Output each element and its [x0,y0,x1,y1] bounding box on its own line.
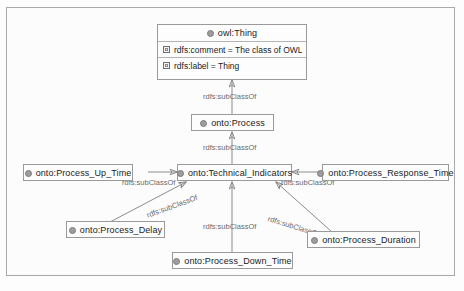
attribute-text: rdfs:label = Thing [174,61,239,71]
node-onto-technical-indicators-header: onto:Technical_Indicators [178,165,291,181]
node-onto-process-response-time-header: onto:Process_Response_Time [323,165,448,181]
node-onto-process-title: onto:Process [211,118,265,128]
node-owl-thing[interactable]: owl:Thing rdfs:comment = The class of OW… [157,24,307,80]
diagram-canvas: rdfs:subClassOf rdfs:subClassOf rdfs:sub… [0,0,464,291]
node-onto-process-duration-title: onto:Process_Duration [322,235,416,245]
class-circle-icon [69,227,76,234]
node-onto-process-up-time[interactable]: onto:Process_Up_Time [23,164,133,181]
node-onto-process-header: onto:Process [192,115,273,131]
class-circle-icon [200,120,207,127]
node-onto-process-delay[interactable]: onto:Process_Delay [66,221,165,238]
node-onto-process-duration[interactable]: onto:Process_Duration [307,231,420,248]
node-onto-process-down-time[interactable]: onto:Process_Down_Time [172,252,293,269]
class-circle-icon [207,30,214,37]
node-onto-process-down-time-title: onto:Process_Down_Time [184,256,291,266]
class-circle-icon [311,237,318,244]
node-onto-process-up-time-header: onto:Process_Up_Time [24,165,132,181]
edge-label-process-to-thing: rdfs:subClassOf [203,92,256,101]
class-circle-icon [177,170,184,177]
node-owl-thing-attribute-label: rdfs:label = Thing [158,57,306,73]
node-onto-process-delay-title: onto:Process_Delay [80,225,162,235]
edge-label-technical-indicators-to-process: rdfs:subClassOf [203,143,256,152]
node-owl-thing-title: owl:Thing [218,28,257,38]
node-onto-process-duration-header: onto:Process_Duration [308,232,419,248]
property-square-icon [163,46,170,53]
edge-label-down-time-to-technical-indicators: rdfs:subClassOf [203,222,256,231]
node-onto-process-response-time[interactable]: onto:Process_Response_Time [322,164,449,181]
node-onto-process-delay-header: onto:Process_Delay [67,222,164,238]
attribute-text: rdfs:comment = The class of OWL ind... [174,45,302,55]
node-onto-technical-indicators[interactable]: onto:Technical_Indicators [177,164,292,181]
property-square-icon [163,62,170,69]
node-onto-process-response-time-title: onto:Process_Response_Time [328,168,453,178]
node-onto-process-down-time-header: onto:Process_Down_Time [173,253,292,269]
node-onto-process-up-time-title: onto:Process_Up_Time [36,168,132,178]
class-circle-icon [25,170,32,177]
node-onto-technical-indicators-title: onto:Technical_Indicators [188,168,292,178]
node-onto-process[interactable]: onto:Process [191,114,274,131]
node-owl-thing-attribute-comment: rdfs:comment = The class of OWL ind... [158,41,306,57]
node-owl-thing-header: owl:Thing [158,25,306,41]
class-circle-icon [173,258,180,265]
class-circle-icon [317,170,324,177]
